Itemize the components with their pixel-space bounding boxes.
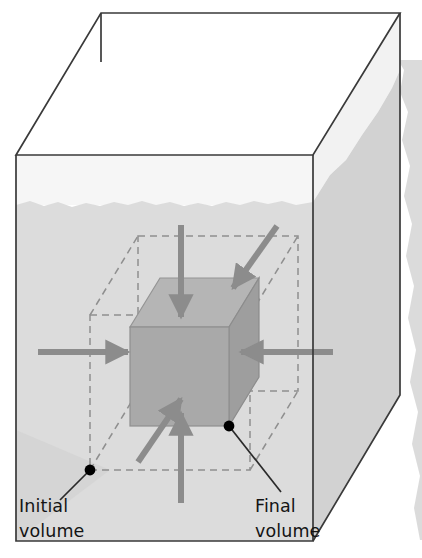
final-volume-front-face <box>130 327 229 426</box>
final-volume-label-line2: volume <box>255 521 320 541</box>
pressure-cube-diagram: Initial volume Final volume <box>0 0 422 558</box>
scan-shadow <box>398 13 422 558</box>
container-front-air <box>16 155 313 205</box>
final-volume-dot <box>224 421 235 432</box>
figure-container: Initial volume Final volume <box>0 0 422 558</box>
final-volume-cube <box>130 278 259 426</box>
initial-volume-label-line1: Initial <box>19 496 68 516</box>
initial-volume-dot <box>85 465 96 476</box>
initial-volume-label-line2: volume <box>19 521 84 541</box>
final-volume-label-line1: Final <box>255 496 296 516</box>
